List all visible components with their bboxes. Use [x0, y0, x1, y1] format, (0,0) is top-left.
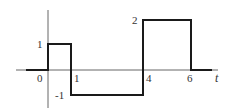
axis-variable-t: t — [215, 71, 219, 85]
signal-diagram: 1 -1 2 0 1 4 6 t — [0, 0, 237, 112]
x-label-6: 6 — [187, 72, 193, 84]
x-label-4: 4 — [146, 72, 152, 84]
y-label-1: 1 — [37, 38, 43, 50]
x-label-1: 1 — [74, 72, 80, 84]
y-label-2: 2 — [132, 14, 138, 26]
x-label-0: 0 — [37, 72, 43, 84]
y-label-neg1: -1 — [55, 89, 64, 101]
signal-plot: 1 -1 2 0 1 4 6 t — [0, 0, 237, 112]
signal-waveform — [26, 20, 212, 95]
